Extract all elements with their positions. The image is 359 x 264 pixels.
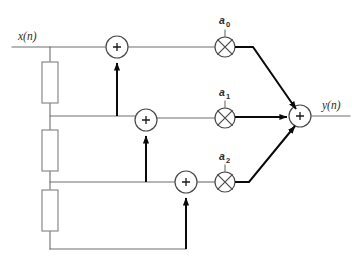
coefficient-a1-base: a bbox=[219, 86, 225, 98]
coefficient-a2-base: a bbox=[219, 150, 225, 162]
mult-a0-to-output-arrow bbox=[235, 47, 296, 109]
multiplier-node-a0[interactable] bbox=[215, 30, 235, 57]
signal-flow-diagram: x(n) y(n) a 0 a 1 a 2 bbox=[0, 0, 359, 264]
delay-element-1 bbox=[42, 130, 58, 171]
delay-element-2 bbox=[42, 190, 58, 231]
output-label: y(n) bbox=[321, 99, 341, 112]
multiplier-nodes bbox=[215, 30, 235, 192]
summer-node-2[interactable] bbox=[175, 171, 197, 193]
summer-nodes bbox=[106, 36, 311, 193]
coefficient-a1-subscript: 1 bbox=[226, 92, 230, 101]
summer-node-1[interactable] bbox=[135, 109, 157, 131]
diagram-canvas: x(n) y(n) a 0 a 1 a 2 bbox=[0, 0, 359, 264]
output-summation-arrows bbox=[235, 47, 296, 182]
coefficient-label-a0: a 0 bbox=[219, 14, 230, 29]
multiplier-node-a1[interactable] bbox=[215, 101, 235, 128]
coefficient-label-a1: a 1 bbox=[219, 86, 230, 101]
summer-node-output[interactable] bbox=[289, 105, 311, 127]
delay-element-0 bbox=[42, 62, 58, 103]
feedback-path bbox=[50, 198, 186, 249]
input-label: x(n) bbox=[17, 30, 37, 43]
coefficient-a2-subscript: 2 bbox=[226, 156, 230, 165]
coefficient-label-a2: a 2 bbox=[219, 150, 230, 165]
coefficient-a0-subscript: 0 bbox=[226, 20, 230, 29]
multiplier-node-a2[interactable] bbox=[215, 165, 235, 192]
coefficient-a0-base: a bbox=[219, 14, 225, 26]
summer-node-0[interactable] bbox=[106, 36, 128, 58]
mult-a2-to-output-arrow bbox=[235, 126, 295, 182]
delay-elements bbox=[42, 62, 58, 231]
